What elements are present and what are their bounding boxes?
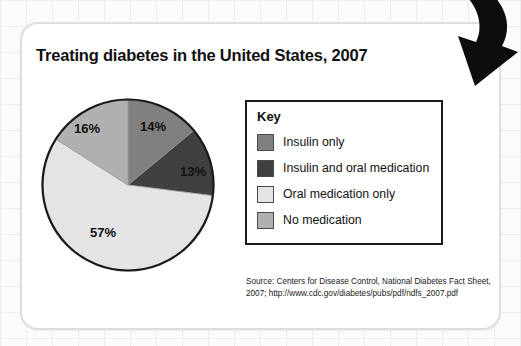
source-line-1: Source: Centers for Disease Control, Nat… <box>246 276 498 288</box>
legend-label-insulin-and-oral: Insulin and oral medication <box>283 161 429 175</box>
legend-label-insulin-only: Insulin only <box>283 135 345 149</box>
legend-swatch-icon-oral-only <box>257 186 274 203</box>
legend-title: Key <box>257 109 441 124</box>
pie-slice-label-insulin-and-oral: 13% <box>180 164 206 179</box>
pie-slice-label-oral-only: 57% <box>90 225 116 240</box>
pie-slice-label-insulin-only: 14% <box>140 119 166 134</box>
legend-swatch-icon-insulin-and-oral <box>257 160 274 177</box>
pie-slice-label-no-medication: 16% <box>74 121 100 136</box>
legend-label-oral-only: Oral medication only <box>283 187 395 201</box>
pie-chart <box>41 98 215 272</box>
source-note: Source: Centers for Disease Control, Nat… <box>246 276 498 299</box>
legend-item-insulin-only: Insulin only <box>257 129 441 155</box>
legend-item-insulin-and-oral: Insulin and oral medication <box>257 155 441 181</box>
source-line-2: 2007; http://www.cdc.gov/diabetes/pubs/p… <box>246 288 498 300</box>
page-title: Treating diabetes in the United States, … <box>36 46 367 65</box>
legend-item-oral-only: Oral medication only <box>257 181 441 207</box>
legend-swatch-icon-no-medication <box>257 212 274 229</box>
legend-item-no-medication: No medication <box>257 207 441 233</box>
legend-label-no-medication: No medication <box>283 213 362 227</box>
legend-box: Key Insulin only Insulin and oral medica… <box>245 100 443 245</box>
pie-chart-svg <box>41 98 215 272</box>
legend-swatch-icon-insulin-only <box>257 134 274 151</box>
